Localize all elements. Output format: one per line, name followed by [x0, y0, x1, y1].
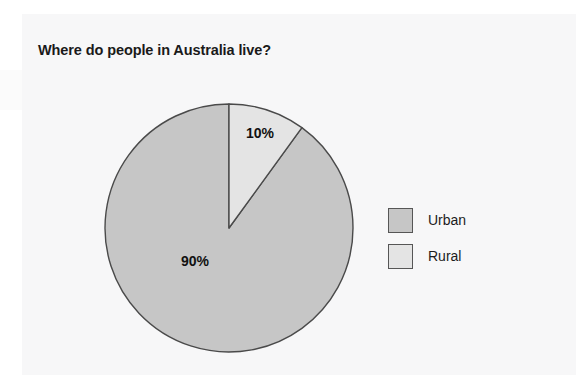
chart-legend: Urban Rural — [388, 202, 466, 274]
pie-chart — [100, 99, 358, 357]
legend-label-urban: Urban — [428, 212, 466, 228]
pie-svg — [100, 99, 358, 357]
chart-title: Where do people in Australia live? — [38, 42, 271, 58]
pie-chart-figure: Where do people in Australia live? 10% 9… — [0, 0, 576, 375]
legend-item-rural[interactable]: Rural — [388, 238, 466, 274]
legend-swatch-rural — [388, 244, 413, 269]
legend-swatch-urban — [388, 208, 413, 233]
legend-item-urban[interactable]: Urban — [388, 202, 466, 238]
legend-label-rural: Rural — [428, 248, 461, 264]
pie-label-rural: 10% — [246, 125, 274, 141]
pie-label-urban: 90% — [181, 253, 209, 269]
